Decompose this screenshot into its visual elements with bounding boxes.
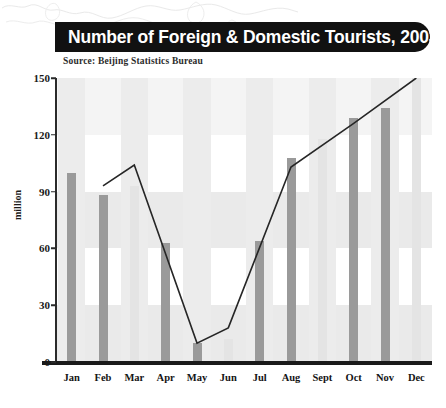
y-tick-mark [51, 248, 56, 250]
y-tick-mark [51, 304, 56, 306]
x-tick-label-may: May [187, 372, 207, 383]
bar-nov [381, 108, 390, 362]
y-tick-mark [51, 77, 56, 79]
page-title: Number of Foreign & Domestic Tourists, 2… [55, 27, 438, 48]
y-tick-label: 60 [18, 242, 50, 254]
y-axis-line [55, 78, 57, 363]
x-tick-label-jan: Jan [63, 372, 79, 383]
bar-jul [255, 241, 264, 362]
column-stripe [183, 78, 210, 362]
chart-page: Number of Foreign & Domestic Tourists, 2… [0, 0, 446, 408]
bar-aug [287, 158, 296, 362]
x-tick-label-sept: Sept [312, 372, 332, 383]
y-tick-label: 0 [18, 356, 50, 368]
x-tick-label-jun: Jun [220, 372, 237, 383]
bar-jun [224, 339, 233, 362]
chart-source: Source: Beijing Statistics Bureau [63, 56, 203, 66]
x-tick-label-aug: Aug [282, 372, 301, 383]
x-tick-label-dec: Dec [408, 372, 425, 383]
y-tick-label: 90 [18, 186, 50, 198]
y-tick-label: 30 [18, 299, 50, 311]
x-tick-label-feb: Feb [95, 372, 112, 383]
x-tick-label-jul: Jul [253, 372, 267, 383]
bar-may [193, 343, 202, 362]
plot-area [56, 78, 432, 362]
y-tick-mark [51, 134, 56, 136]
y-tick-mark [51, 191, 56, 193]
bar-feb [99, 195, 108, 362]
x-tick-label-oct: Oct [345, 372, 361, 383]
x-tick-label-apr: Apr [157, 372, 175, 383]
x-tick-label-nov: Nov [376, 372, 394, 383]
x-tick-label-mar: Mar [124, 372, 144, 383]
bar-oct [349, 118, 358, 362]
x-axis-line [42, 361, 432, 365]
bar-jan [67, 173, 76, 362]
bar-sept [318, 139, 327, 362]
y-tick-label: 120 [18, 129, 50, 141]
bar-mar [130, 186, 139, 362]
y-tick-mark [51, 361, 56, 363]
chart-title-bar: Number of Foreign & Domestic Tourists, 2… [55, 22, 430, 52]
bar-dec [412, 78, 421, 362]
y-tick-label: 150 [18, 72, 50, 84]
bar-apr [161, 243, 170, 362]
